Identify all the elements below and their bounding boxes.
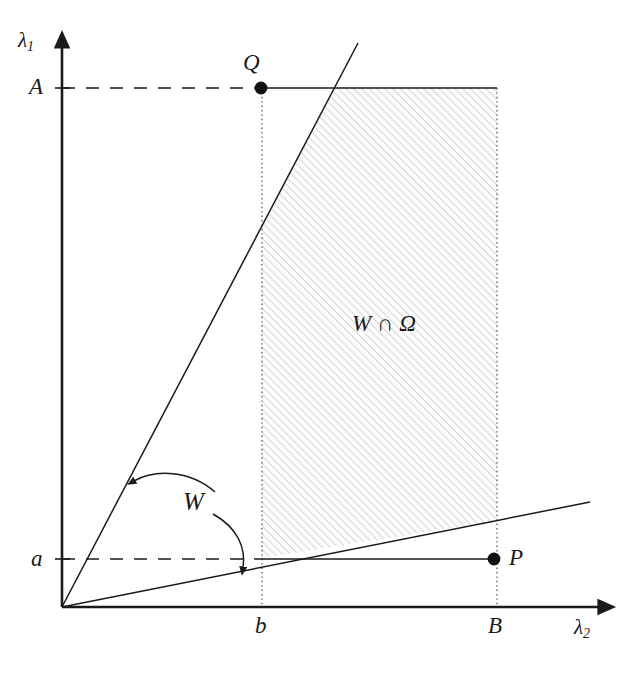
- region-label-w-cap-omega: W ∩ Ω: [352, 311, 416, 337]
- y-axis-label: λ1: [18, 28, 34, 55]
- arrow-to-lower-ray: [213, 514, 244, 568]
- diagram-svg: [0, 0, 640, 673]
- tick-label-a: a: [31, 546, 43, 572]
- tick-label-B: B: [488, 613, 502, 639]
- tick-label-b: b: [255, 613, 267, 639]
- cone-label-W: W: [183, 488, 204, 516]
- x-axis-label: λ2: [574, 615, 590, 642]
- point-label-P: P: [509, 545, 523, 571]
- point-label-Q: Q: [243, 50, 260, 76]
- point-Q-marker: [255, 82, 268, 95]
- figure-canvas: λ1 λ2 A a b B Q P W W ∩ Ω: [0, 0, 640, 673]
- tick-label-A: A: [29, 74, 43, 100]
- point-P-marker: [488, 553, 501, 566]
